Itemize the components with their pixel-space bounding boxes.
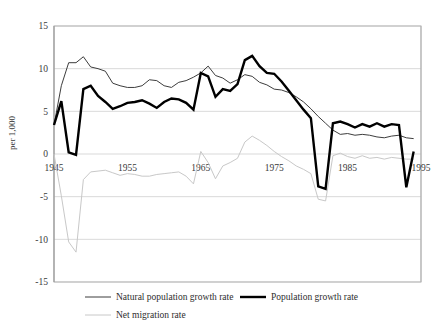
legend-label-natural-population-growth-rate: Natural population growth rate bbox=[116, 292, 233, 302]
chart-canvas: 151050-5-10-15194519551965197519851995Na… bbox=[0, 0, 448, 330]
x-tick-label: 1985 bbox=[338, 163, 357, 173]
y-tick-label: 0 bbox=[43, 149, 48, 159]
x-tick-label: 1955 bbox=[118, 163, 137, 173]
legend-label-net-migration-rate: Net migration rate bbox=[116, 310, 186, 320]
y-tick-label: 15 bbox=[39, 21, 49, 31]
series-line-net-migration-rate bbox=[54, 136, 414, 252]
y-tick-label: 10 bbox=[39, 64, 49, 74]
y-tick-label: -15 bbox=[35, 277, 48, 287]
x-tick-label: 1965 bbox=[191, 163, 210, 173]
x-tick-label: 1975 bbox=[265, 163, 284, 173]
x-tick-label: 1995 bbox=[412, 163, 431, 173]
population-growth-chart: per 1,000 151050-5-10-151945195519651975… bbox=[0, 0, 448, 330]
y-tick-label: 5 bbox=[43, 107, 48, 117]
y-tick-label: -5 bbox=[40, 192, 48, 202]
x-tick-label: 1945 bbox=[45, 163, 64, 173]
y-tick-label: -10 bbox=[35, 235, 48, 245]
legend-label-population-growth-rate: Population growth rate bbox=[271, 292, 358, 302]
